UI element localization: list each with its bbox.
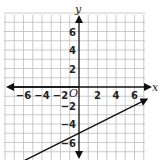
x-tick-label: 2 xyxy=(94,90,101,101)
data-line xyxy=(19,99,147,160)
x-tick-label: −2 xyxy=(53,90,68,101)
x-tick-label: −4 xyxy=(34,90,49,101)
y-axis-label: y xyxy=(74,3,82,16)
origin-label: O xyxy=(69,87,78,100)
x-tick-label: 4 xyxy=(113,90,120,101)
x-tick-label: −6 xyxy=(16,90,31,101)
y-tick-label: −2 xyxy=(61,101,76,112)
y-tick-label: 2 xyxy=(69,64,76,75)
y-tick-label: 4 xyxy=(69,45,76,56)
x-tick-label: 6 xyxy=(131,90,138,101)
coordinate-plane: −6−4−2246642−2−4−6 x y O xyxy=(0,0,167,160)
y-tick-label: 6 xyxy=(69,27,76,38)
y-tick-label: −4 xyxy=(61,119,76,130)
x-axis-label: x xyxy=(152,81,159,94)
